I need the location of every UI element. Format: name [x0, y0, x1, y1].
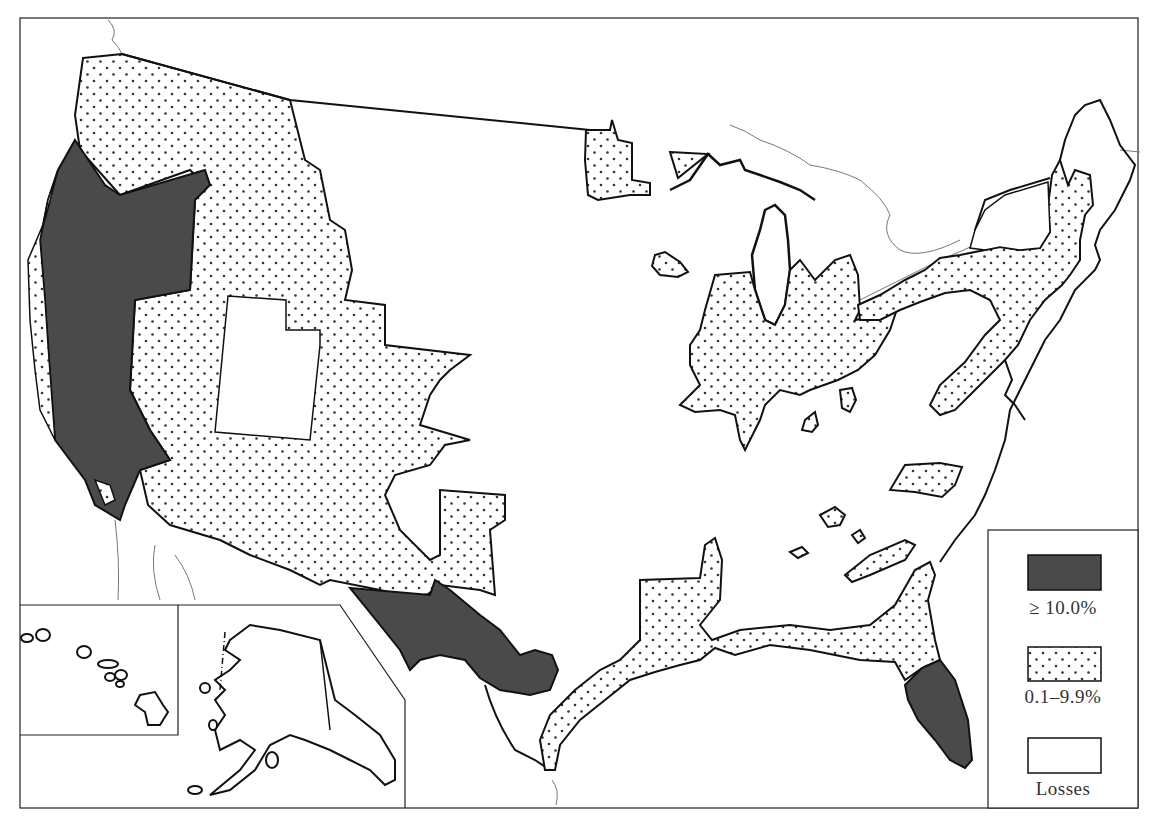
legend-swatch-high: [1028, 555, 1101, 590]
legend-swatch-mid: [1028, 647, 1101, 681]
legend-swatch-loss: [1028, 738, 1101, 773]
alaska-island-st-lawrence: [200, 683, 210, 693]
alaska-island-kodiak: [266, 752, 278, 768]
legend-label-mid: 0.1–9.9%: [988, 686, 1138, 708]
alaska-island-nunivak: [209, 720, 217, 730]
legend-label-high: ≥ 10.0%: [988, 597, 1138, 619]
alaska-island-aleutian: [188, 786, 202, 794]
legend-label-loss: Losses: [988, 778, 1138, 800]
us-choropleth-map: [0, 0, 1153, 822]
